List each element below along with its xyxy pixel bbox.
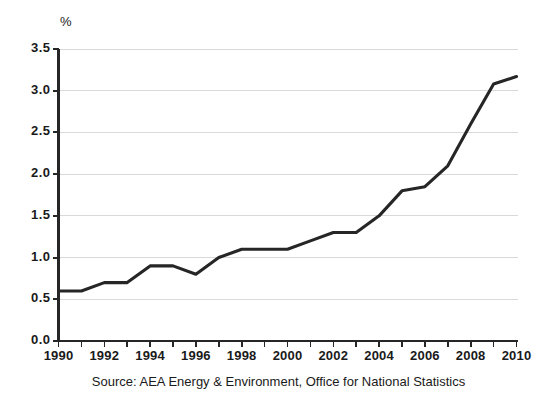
x-axis-tick-label: 1996: [173, 348, 219, 363]
series-line: [59, 77, 517, 291]
axis-lines: [58, 49, 518, 341]
y-axis-tick-label: 0.0: [17, 332, 51, 347]
x-axis-tick-label: 2004: [356, 348, 402, 363]
y-axis-tick-label: 1.5: [17, 207, 51, 222]
x-axis-tick-label: 2006: [402, 348, 448, 363]
x-axis-tick-label: 1990: [36, 348, 82, 363]
y-axis-tick-label: 3.0: [17, 82, 51, 97]
y-axis-tick-label: 2.0: [17, 165, 51, 180]
source-note: Source: AEA Energy & Environment, Office…: [0, 374, 557, 389]
y-axis-tick-label: 2.5: [17, 123, 51, 138]
x-axis-tick-label: 2010: [494, 348, 540, 363]
x-axis-tick-label: 1998: [219, 348, 265, 363]
data-series-line: [59, 77, 517, 291]
chart-container: % 0.00.51.01.52.02.53.03.5 1990199219941…: [0, 0, 557, 404]
x-axis-tick-label: 2002: [310, 348, 356, 363]
y-axis-tick-label: 1.0: [17, 249, 51, 264]
gridlines: [59, 49, 518, 341]
line-chart-plot: [0, 0, 557, 404]
x-axis-tick-label: 1992: [81, 348, 127, 363]
y-axis-tick-label: 0.5: [17, 290, 51, 305]
x-axis-tick-label: 1994: [127, 348, 173, 363]
y-axis-tick-label: 3.5: [17, 40, 51, 55]
x-axis-tick-label: 2008: [448, 348, 494, 363]
x-axis-tick-label: 2000: [265, 348, 311, 363]
